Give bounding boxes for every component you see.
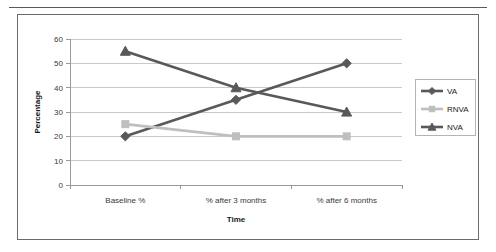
data-point-marker	[120, 46, 130, 55]
y-gridlines	[70, 39, 402, 185]
x-category-label: % after 6 months	[316, 196, 376, 205]
data-point-marker	[122, 121, 129, 128]
x-category-labels: Baseline %% after 3 months% after 6 mont…	[105, 196, 377, 205]
y-tick-label: 10	[54, 157, 63, 166]
top-divider-rule	[9, 7, 487, 8]
line-chart: 0102030405060 Baseline %% after 3 months…	[18, 15, 478, 239]
chart-legend: VARNVANVA	[415, 79, 475, 135]
y-tick-label: 20	[54, 132, 63, 141]
x-category-label: % after 3 months	[206, 196, 266, 205]
chart-figure-frame: 0102030405060 Baseline %% after 3 months…	[17, 14, 479, 240]
series-nva	[120, 46, 351, 116]
x-category-label: Baseline %	[105, 196, 145, 205]
data-point-marker	[429, 106, 434, 111]
legend-item-label: NVA	[447, 123, 464, 132]
chart-plot-wrapper: 0102030405060 Baseline %% after 3 months…	[18, 15, 478, 239]
data-series-group	[120, 46, 351, 141]
data-point-marker	[231, 95, 240, 104]
y-axis-title: Percentage	[33, 90, 42, 134]
data-point-marker	[342, 59, 351, 68]
legend-item-label: RNVA	[447, 105, 469, 114]
y-tick-label: 60	[54, 35, 63, 44]
x-tick-marks	[70, 185, 402, 189]
data-point-marker	[121, 132, 130, 141]
y-tick-label: 40	[54, 84, 63, 93]
y-tick-label: 0	[59, 181, 64, 190]
data-point-marker	[233, 133, 240, 140]
y-tick-label: 50	[54, 59, 63, 68]
y-tick-label: 30	[54, 108, 63, 117]
series-rnva	[122, 121, 350, 140]
legend-item-label: VA	[447, 87, 458, 96]
data-point-marker	[343, 133, 350, 140]
x-axis-title: Time	[227, 215, 246, 224]
y-tick-labels: 0102030405060	[54, 35, 70, 190]
